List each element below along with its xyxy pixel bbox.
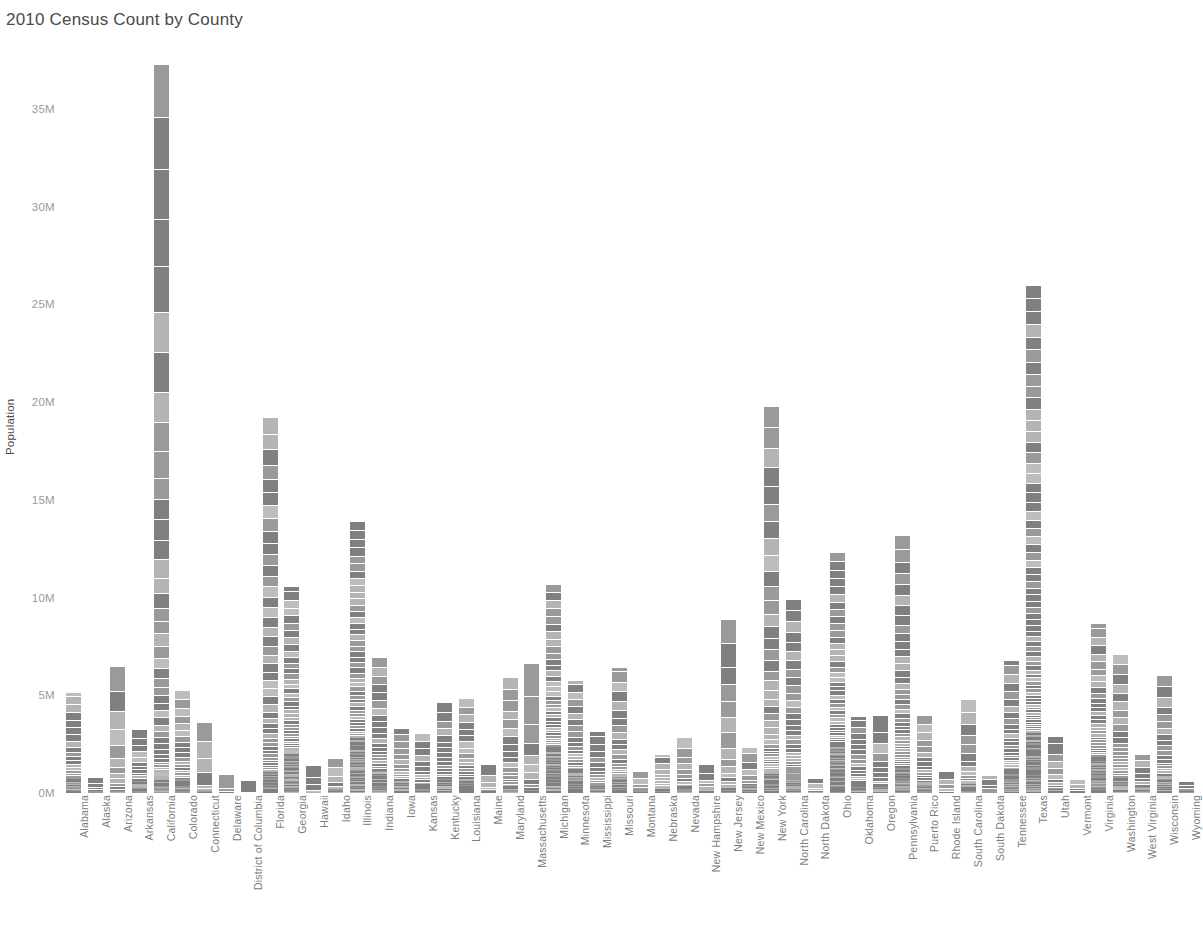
bar-segment[interactable] xyxy=(1026,537,1041,545)
bar-segment[interactable] xyxy=(895,616,910,626)
bar-arkansas[interactable] xyxy=(132,736,147,793)
bar-segment[interactable] xyxy=(350,792,365,793)
bar-segment[interactable] xyxy=(612,792,627,793)
bar-segment[interactable] xyxy=(764,707,779,714)
bar-segment[interactable] xyxy=(263,418,278,435)
bar-segment[interactable] xyxy=(263,664,278,673)
bar-segment[interactable] xyxy=(917,741,932,748)
bar-segment[interactable] xyxy=(503,737,518,745)
bar-segment[interactable] xyxy=(350,564,365,572)
bar-georgia[interactable] xyxy=(284,604,299,793)
bar-segment[interactable] xyxy=(1113,665,1128,675)
bar-segment[interactable] xyxy=(568,792,583,793)
bar-california[interactable] xyxy=(154,65,169,793)
bar-segment[interactable] xyxy=(546,617,561,625)
bar-segment[interactable] xyxy=(1026,582,1041,589)
bar-segment[interactable] xyxy=(132,792,147,793)
bar-segment[interactable] xyxy=(154,792,169,793)
bar-segment[interactable] xyxy=(830,624,845,631)
bar-segment[interactable] xyxy=(197,723,212,742)
bar-segment[interactable] xyxy=(764,700,779,708)
bar-segment[interactable] xyxy=(306,766,321,779)
bar-segment[interactable] xyxy=(459,708,474,716)
bar-segment[interactable] xyxy=(154,634,169,646)
bar-segment[interactable] xyxy=(1004,792,1019,793)
bar-segment[interactable] xyxy=(1004,684,1019,692)
bar-segment[interactable] xyxy=(1157,792,1172,793)
bar-segment[interactable] xyxy=(372,693,387,701)
bar-segment[interactable] xyxy=(1004,675,1019,684)
bar-segment[interactable] xyxy=(175,700,190,709)
bar-segment[interactable] xyxy=(350,586,365,593)
bar-segment[interactable] xyxy=(110,746,125,759)
bar-segment[interactable] xyxy=(110,759,125,767)
bar-segment[interactable] xyxy=(1026,464,1041,474)
bar-segment[interactable] xyxy=(939,772,954,780)
bar-segment[interactable] xyxy=(415,742,430,749)
bar-segment[interactable] xyxy=(524,664,539,697)
bar-segment[interactable] xyxy=(764,714,779,721)
bar-segment[interactable] xyxy=(721,668,736,685)
bar-segment[interactable] xyxy=(66,735,81,742)
bar-louisiana[interactable] xyxy=(459,704,474,793)
bar-segment[interactable] xyxy=(1026,350,1041,362)
bar-segment[interactable] xyxy=(873,754,888,762)
bar-segment[interactable] xyxy=(394,735,409,743)
bar-segment[interactable] xyxy=(481,776,496,783)
bar-segment[interactable] xyxy=(1091,646,1106,654)
bar-segment[interactable] xyxy=(263,792,278,793)
bar-segment[interactable] xyxy=(154,647,169,659)
bar-segment[interactable] xyxy=(132,739,147,746)
bar-segment[interactable] xyxy=(154,669,169,679)
bar-segment[interactable] xyxy=(66,697,81,705)
bar-segment[interactable] xyxy=(154,718,169,725)
bar-segment[interactable] xyxy=(677,792,692,793)
bar-segment[interactable] xyxy=(350,557,365,565)
bar-segment[interactable] xyxy=(1091,662,1106,669)
bar-segment[interactable] xyxy=(328,792,343,793)
bar-segment[interactable] xyxy=(764,468,779,487)
bar-segment[interactable] xyxy=(939,792,954,793)
bar-segment[interactable] xyxy=(284,638,299,645)
bar-segment[interactable] xyxy=(350,579,365,586)
bar-segment[interactable] xyxy=(328,768,343,777)
bar-segment[interactable] xyxy=(917,716,932,725)
bar-missouri[interactable] xyxy=(612,676,627,793)
bar-segment[interactable] xyxy=(1026,529,1041,537)
bar-segment[interactable] xyxy=(197,742,212,759)
bar-segment[interactable] xyxy=(786,633,801,643)
bar-hawaii[interactable] xyxy=(306,766,321,793)
bar-segment[interactable] xyxy=(219,775,234,789)
bar-segment[interactable] xyxy=(786,643,801,653)
bar-segment[interactable] xyxy=(175,792,190,793)
bar-segment[interactable] xyxy=(263,532,278,544)
bar-segment[interactable] xyxy=(786,670,801,678)
bar-segment[interactable] xyxy=(1179,792,1194,793)
bar-segment[interactable] xyxy=(175,724,190,731)
bar-segment[interactable] xyxy=(830,571,845,579)
bar-segment[interactable] xyxy=(154,500,169,520)
bar-segment[interactable] xyxy=(1157,687,1172,698)
bar-segment[interactable] xyxy=(677,749,692,758)
bar-segment[interactable] xyxy=(284,624,299,631)
bar-segment[interactable] xyxy=(895,536,910,550)
bar-segment[interactable] xyxy=(830,603,845,610)
bar-segment[interactable] xyxy=(786,678,801,686)
bar-segment[interactable] xyxy=(154,696,169,704)
bar-segment[interactable] xyxy=(263,705,278,713)
bar-segment[interactable] xyxy=(742,763,757,770)
bar-segment[interactable] xyxy=(721,718,736,733)
bar-segment[interactable] xyxy=(503,729,518,737)
bar-nebraska[interactable] xyxy=(655,757,670,793)
bar-segment[interactable] xyxy=(459,723,474,730)
bar-segment[interactable] xyxy=(154,313,169,354)
bar-segment[interactable] xyxy=(372,658,387,668)
bar-texas[interactable] xyxy=(1026,302,1041,794)
bar-segment[interactable] xyxy=(612,711,627,719)
bar-washington[interactable] xyxy=(1113,662,1128,793)
bar-segment[interactable] xyxy=(1091,655,1106,663)
bar-segment[interactable] xyxy=(895,585,910,596)
bar-segment[interactable] xyxy=(873,733,888,744)
bar-segment[interactable] xyxy=(284,645,299,652)
bar-segment[interactable] xyxy=(721,702,736,718)
